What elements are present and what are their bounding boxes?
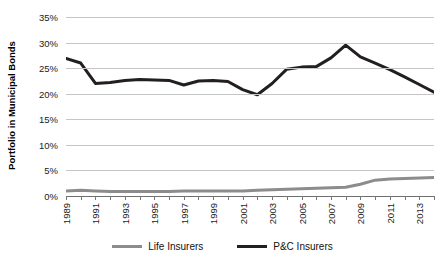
- x-axis-tick: [419, 196, 420, 200]
- x-axis-tick-label: 1993: [119, 203, 130, 224]
- x-axis-tick: [184, 196, 185, 200]
- y-axis-tick-label: 5%: [44, 165, 58, 176]
- legend-label-pc-insurers: P&C Insurers: [273, 241, 332, 252]
- legend-swatch-pc-insurers: [237, 245, 267, 248]
- x-axis-tick: [272, 196, 273, 200]
- x-axis-tick: [110, 196, 111, 200]
- y-axis-tick-labels: 35%30%25%20%15%10%5%0%: [24, 0, 62, 210]
- x-axis-tick-label: 1995: [149, 203, 160, 224]
- x-axis-tick: [213, 196, 214, 200]
- x-axis-tick-label: 2011: [384, 203, 395, 223]
- x-axis-tick: [243, 196, 244, 200]
- legend-swatch-life-insurers: [112, 245, 142, 248]
- x-axis-tick: [316, 196, 317, 200]
- gridline: [66, 170, 434, 171]
- x-axis-tick: [287, 196, 288, 200]
- x-axis-tick-label: 2013: [414, 203, 425, 224]
- x-axis-tick-label: 2009: [355, 203, 366, 224]
- legend-label-life-insurers: Life Insurers: [148, 241, 203, 252]
- x-axis-tick-label: 2005: [296, 203, 307, 224]
- x-axis-tick: [257, 196, 258, 200]
- x-axis-tick: [360, 196, 361, 200]
- legend-item-pc-insurers: P&C Insurers: [237, 241, 332, 252]
- x-axis-tick-label: 1989: [61, 203, 72, 224]
- y-axis-tick-label: 20%: [39, 88, 58, 99]
- gridline: [66, 17, 434, 18]
- x-axis-tick-label: 2007: [325, 203, 336, 224]
- x-axis-tick: [228, 196, 229, 200]
- x-axis-tick-label: 2003: [267, 203, 278, 224]
- y-axis-tick-label: 0%: [44, 191, 58, 202]
- series-paths: [66, 17, 434, 196]
- y-axis-tick-label: 30%: [39, 37, 58, 48]
- x-axis-tick: [95, 196, 96, 200]
- x-axis-tick: [125, 196, 126, 200]
- x-axis-tick: [434, 196, 435, 200]
- plot-area: [66, 17, 434, 196]
- x-axis-tick: [375, 196, 376, 200]
- x-axis-line: [66, 196, 434, 197]
- y-axis-tick-label: 35%: [39, 12, 58, 23]
- x-axis-tick: [198, 196, 199, 200]
- x-axis-tick-label: 1991: [90, 203, 101, 224]
- x-axis-tick: [154, 196, 155, 200]
- gridline: [66, 68, 434, 69]
- series-line-life-insurers: [66, 178, 434, 192]
- y-axis-tick-label: 25%: [39, 63, 58, 74]
- x-axis-tick-label: 2001: [237, 203, 248, 224]
- x-axis-tick: [390, 196, 391, 200]
- y-axis-tick-label: 10%: [39, 139, 58, 150]
- x-axis-tick: [302, 196, 303, 200]
- legend-item-life-insurers: Life Insurers: [112, 241, 203, 252]
- x-axis-tick-label: 1997: [178, 203, 189, 224]
- x-axis-tick: [66, 196, 67, 200]
- y-axis-title-label: Portfolio in Municipal Bonds: [6, 41, 17, 170]
- x-axis-tick: [169, 196, 170, 200]
- chart-legend: Life Insurers P&C Insurers: [0, 236, 445, 256]
- x-axis-tick: [346, 196, 347, 200]
- series-line-p-c-insurers: [66, 45, 434, 95]
- gridline: [66, 94, 434, 95]
- y-axis-tick-label: 15%: [39, 114, 58, 125]
- y-axis-title: Portfolio in Municipal Bonds: [0, 0, 22, 210]
- x-axis-tick: [405, 196, 406, 200]
- x-axis-tick: [331, 196, 332, 200]
- gridline: [66, 119, 434, 120]
- gridline: [66, 145, 434, 146]
- x-axis-tick: [140, 196, 141, 200]
- x-axis-tick: [81, 196, 82, 200]
- gridline: [66, 43, 434, 44]
- municipal-bonds-line-chart: Portfolio in Municipal Bonds 35%30%25%20…: [0, 0, 445, 260]
- x-axis-tick-label: 1999: [208, 203, 219, 224]
